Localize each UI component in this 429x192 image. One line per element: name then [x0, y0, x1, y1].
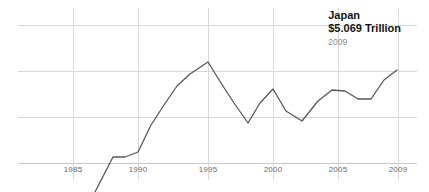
annotation-value-label: $5.069 Trillion: [328, 22, 401, 35]
chart-container: 1985 1990 1995 2000 2005 2009 Japan $5.0…: [0, 0, 429, 192]
chart-annotation: Japan $5.069 Trillion 2009: [328, 9, 401, 47]
x-tick-label-2000: 2000: [264, 165, 283, 174]
x-tick-label-1985: 1985: [64, 165, 83, 174]
x-tick-label-2009: 2009: [389, 165, 408, 174]
x-tick-label-1995: 1995: [199, 165, 218, 174]
x-tick-label-1990: 1990: [129, 165, 148, 174]
annotation-country-label: Japan: [328, 9, 401, 22]
x-tick-label-2005: 2005: [329, 165, 348, 174]
annotation-year-label: 2009: [328, 37, 401, 47]
